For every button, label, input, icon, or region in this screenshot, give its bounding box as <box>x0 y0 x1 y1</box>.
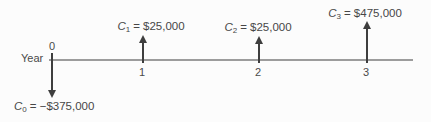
up-arrow-icon <box>363 21 371 29</box>
cash-flow-label-c0: C0= −$375,000 <box>14 100 94 113</box>
flow-value: = −$375,000 <box>30 100 95 112</box>
cash-flow-label-c1: C1= $25,000 <box>117 20 184 33</box>
year-tick-label-2: 2 <box>255 66 261 78</box>
arrow-stem-year-0 <box>51 60 53 91</box>
year-tick-label-1: 1 <box>139 66 145 78</box>
up-arrow-icon <box>255 36 263 44</box>
flow-subscript: 3 <box>336 12 340 21</box>
cash-flow-label-c3: C3= $475,000 <box>328 7 402 20</box>
arrow-stem-year-1 <box>142 42 144 63</box>
flow-subscript: 2 <box>233 26 237 35</box>
arrow-stem-year-3 <box>366 28 368 63</box>
cash-flow-label-c2: C2= $25,000 <box>224 21 291 34</box>
year-tick-label-0: 0 <box>49 40 55 52</box>
flow-value: = $25,000 <box>240 21 291 33</box>
flow-value: = $25,000 <box>133 20 184 32</box>
year-tick-label-3: 3 <box>363 66 369 78</box>
timeline-axis <box>49 59 413 61</box>
arrow-stem-year-2 <box>258 43 260 63</box>
tick-year-0 <box>51 53 53 60</box>
flow-value: = $475,000 <box>344 7 402 19</box>
axis-label-year: Year <box>21 52 43 65</box>
up-arrow-icon <box>139 35 147 43</box>
flow-subscript: 1 <box>126 25 130 34</box>
down-arrow-icon <box>48 90 56 98</box>
cash-flow-diagram: Year 0 C0= −$375,000 1 C1= $25,000 2 C2=… <box>0 0 431 122</box>
flow-subscript: 0 <box>22 105 26 114</box>
